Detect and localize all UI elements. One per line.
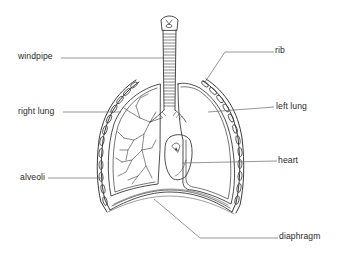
label-rib: rib	[275, 45, 285, 55]
ribs-left	[97, 80, 139, 212]
right-lung	[108, 84, 162, 196]
label-diaphragm: diaphragm	[279, 231, 321, 241]
windpipe	[150, 16, 186, 122]
label-alveoli: alveoli	[20, 172, 45, 182]
label-heart: heart	[278, 155, 298, 165]
label-windpipe: windpipe	[18, 51, 53, 61]
ribs-right	[201, 79, 244, 213]
leader-lines	[48, 52, 278, 238]
heart	[165, 135, 192, 180]
left-lung	[178, 83, 235, 204]
label-right-lung: right lung	[18, 106, 54, 116]
lungs-diagram	[0, 0, 345, 254]
label-left-lung: left lung	[276, 101, 307, 111]
diaphragm	[108, 189, 234, 214]
